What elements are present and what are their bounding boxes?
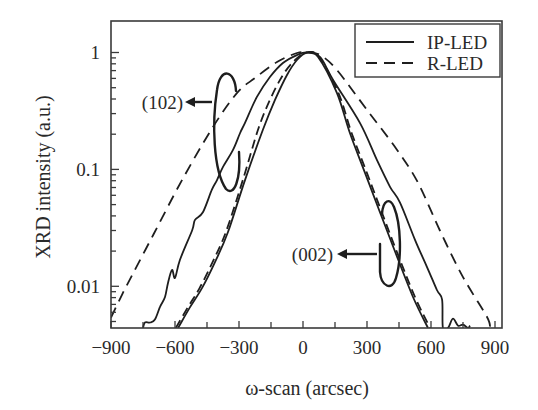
y-tick-label: 0.01	[67, 276, 100, 297]
arrow-left-icon	[337, 249, 347, 259]
annotation-002-loop	[380, 201, 400, 286]
xrd-omega-scan-chart: (102) (002) −900−600−30003006009000.010.…	[0, 0, 538, 410]
x-tick-label: −300	[219, 337, 258, 358]
x-axis-title: ω-scan (arcsec)	[245, 377, 369, 400]
series-line-ip-led-102	[143, 52, 470, 330]
y-axis-title: XRD intensity (a.u.)	[32, 95, 55, 258]
legend: IP-LED R-LED	[355, 24, 500, 77]
legend-label-ip-led: IP-LED	[427, 32, 487, 53]
arrow-left-icon	[185, 97, 195, 107]
annotation-002: (002)	[292, 201, 400, 286]
x-tick-label: 600	[417, 337, 446, 358]
x-tick-label: −900	[91, 337, 130, 358]
annotation-102-label: (102)	[142, 92, 183, 114]
x-tick-label: −600	[155, 337, 194, 358]
x-tick-label: 300	[353, 337, 382, 358]
annotation-102: (102)	[142, 74, 240, 191]
chart-canvas: (102) (002) −900−600−30003006009000.010.…	[0, 0, 538, 410]
y-tick-label: 0.1	[76, 159, 100, 180]
x-tick-label: 900	[481, 337, 510, 358]
annotation-002-label: (002)	[292, 244, 333, 266]
y-tick-label: 1	[91, 42, 101, 63]
annotation-102-loop	[214, 74, 239, 191]
x-tick-label: 0	[298, 337, 308, 358]
legend-label-r-led: R-LED	[427, 53, 483, 74]
